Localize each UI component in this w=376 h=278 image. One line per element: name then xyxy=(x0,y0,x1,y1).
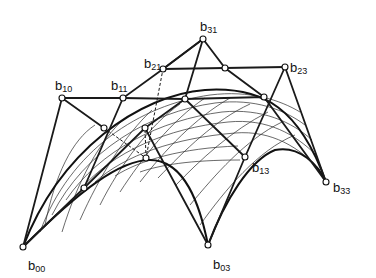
label-b33: b33 xyxy=(333,180,350,196)
control-point-b11 xyxy=(120,95,126,101)
patch-boundary xyxy=(23,90,326,247)
surface-mesh xyxy=(40,94,320,232)
control-point xyxy=(142,125,148,131)
control-point xyxy=(143,155,149,161)
label-b03: b03 xyxy=(213,257,230,273)
control-point-b00 xyxy=(20,244,26,250)
control-point-b31 xyxy=(200,36,206,42)
control-point xyxy=(81,185,87,191)
control-point-b10 xyxy=(59,95,65,101)
label-b13: b13 xyxy=(252,160,269,176)
control-point-b23 xyxy=(282,64,288,70)
label-b00: b00 xyxy=(28,258,45,274)
control-point-b33 xyxy=(323,179,329,185)
point-labels: b00 b03 b10 b11 b13 b21 b23 b31 b33 xyxy=(28,19,350,274)
control-point xyxy=(222,65,228,71)
control-point-b13 xyxy=(242,154,248,160)
control-point xyxy=(182,96,188,102)
label-b11: b11 xyxy=(111,78,128,94)
bezier-patch-diagram: b00 b03 b10 b11 b13 b21 b23 b31 b33 xyxy=(0,0,376,278)
label-b23: b23 xyxy=(290,60,307,76)
control-point xyxy=(261,94,267,100)
control-point-b03 xyxy=(205,242,211,248)
label-b31: b31 xyxy=(200,19,217,35)
control-point xyxy=(101,125,107,131)
label-b10: b10 xyxy=(55,78,72,94)
label-b21: b21 xyxy=(144,56,161,72)
